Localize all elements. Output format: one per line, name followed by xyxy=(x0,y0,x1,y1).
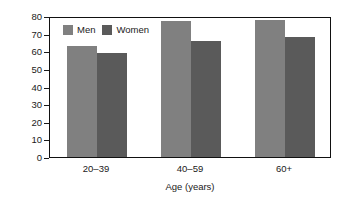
y-tick-label: 80 xyxy=(22,12,42,22)
y-tick-label: 30 xyxy=(22,100,42,110)
x-axis-title: Age (years) xyxy=(49,181,331,192)
legend: Men Women xyxy=(63,25,149,35)
bar-group xyxy=(161,18,221,157)
bar-women-1[interactable] xyxy=(191,41,221,157)
bar-men-2[interactable] xyxy=(255,20,285,157)
y-tick-label: 0 xyxy=(22,153,42,163)
bar-group xyxy=(255,18,315,157)
x-axis-tick-labels: 20–3940–5960+ xyxy=(49,163,331,175)
x-tick-label: 40–59 xyxy=(143,163,237,174)
legend-entry-men: Men xyxy=(63,25,95,35)
legend-swatch-women-icon xyxy=(102,25,112,35)
y-tick-label: 50 xyxy=(22,65,42,75)
legend-entry-women: Women xyxy=(102,25,149,35)
x-tick-label: 60+ xyxy=(237,163,331,174)
plot-inner: Men Women xyxy=(50,18,330,157)
bar-chart-figure: Percentage of U.S. Adults 01020304050607… xyxy=(0,0,342,203)
legend-swatch-men-icon xyxy=(63,25,73,35)
y-axis-tick-labels: 01020304050607080 xyxy=(18,0,42,203)
plot-area: Men Women xyxy=(49,17,331,158)
y-tick-mark xyxy=(44,158,49,159)
bar-men-1[interactable] xyxy=(161,21,191,157)
y-tick-label: 60 xyxy=(22,47,42,57)
legend-label-men: Men xyxy=(77,25,95,35)
y-tick-label: 20 xyxy=(22,118,42,128)
bar-women-0[interactable] xyxy=(97,53,127,157)
bar-women-2[interactable] xyxy=(285,37,315,157)
y-tick-label: 70 xyxy=(22,30,42,40)
bar-men-0[interactable] xyxy=(67,46,97,157)
y-tick-label: 10 xyxy=(22,135,42,145)
bar-group xyxy=(67,18,127,157)
y-tick-label: 40 xyxy=(22,83,42,93)
legend-label-women: Women xyxy=(116,25,149,35)
x-tick-label: 20–39 xyxy=(49,163,143,174)
